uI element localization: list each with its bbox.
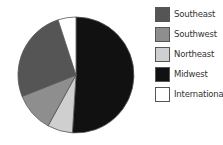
pie-chart xyxy=(0,0,150,145)
legend-label: Southeast xyxy=(174,9,215,19)
legend-label: Southwest xyxy=(174,29,217,39)
pie-slice-midwest xyxy=(72,17,134,133)
legend-label: International xyxy=(174,89,223,99)
legend-swatch xyxy=(155,67,170,82)
legend-swatch xyxy=(155,87,170,102)
legend-swatch xyxy=(155,7,170,22)
legend-label: Midwest xyxy=(174,69,208,79)
legend-label: Northeast xyxy=(174,49,214,59)
legend-swatch xyxy=(155,27,170,42)
legend-swatch xyxy=(155,47,170,62)
